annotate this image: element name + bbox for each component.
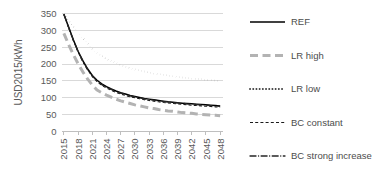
y-tick-label: 200 [41, 58, 57, 69]
x-tick-label: 2024 [101, 139, 112, 160]
x-tick-label: 2042 [186, 139, 197, 160]
x-tick-label: 2015 [58, 139, 69, 160]
x-tick-label: 2033 [144, 139, 155, 160]
y-tick-label: 100 [41, 92, 57, 103]
y-tick-label: 150 [41, 75, 57, 86]
x-tick-label: 2021 [87, 139, 98, 160]
legend-label-lr-high: LR high [291, 50, 324, 61]
gridlines [62, 14, 223, 132]
series-line-bc-strong-increase [64, 14, 220, 106]
y-tick-label: 50 [46, 109, 57, 120]
series-line-ref [64, 14, 220, 106]
data-series [64, 14, 220, 115]
x-tick-label: 2036 [158, 139, 169, 160]
x-tick-label: 2045 [201, 139, 212, 160]
x-tick-label: 2048 [215, 139, 226, 160]
y-tick-label: 300 [41, 25, 57, 36]
series-line-lr-high [64, 33, 220, 115]
y-axis-title: USD2015/kWh [13, 39, 24, 105]
y-tick-label: 350 [41, 8, 57, 19]
legend-label-bc-constant: BC constant [291, 117, 343, 128]
y-axis-title: USD2015/kWh [13, 39, 24, 105]
x-tick-label: 2018 [73, 139, 84, 160]
legend-label-bc-strong-increase: BC strong increase [291, 150, 372, 161]
x-axis-tick-labels: 2015201820212024202720302033203620392042… [58, 139, 225, 160]
legend-label-lr-low: LR low [291, 83, 320, 94]
series-line-bc-constant [64, 14, 220, 107]
legend-label-ref: REF [291, 16, 310, 27]
x-tick-label: 2027 [115, 139, 126, 160]
x-tick-label: 2039 [172, 139, 183, 160]
x-tick-label: 2030 [129, 139, 140, 160]
y-tick-label: 0 [51, 126, 56, 137]
chart-container: 050100150200250300350 USD2015/kWh 201520… [0, 0, 380, 174]
chart-legend: REFLR highLR lowBC constantBC strong inc… [250, 16, 372, 161]
y-axis-tick-labels: 050100150200250300350 [41, 8, 57, 137]
line-chart: 050100150200250300350 USD2015/kWh 201520… [0, 0, 380, 174]
y-tick-label: 250 [41, 42, 57, 53]
